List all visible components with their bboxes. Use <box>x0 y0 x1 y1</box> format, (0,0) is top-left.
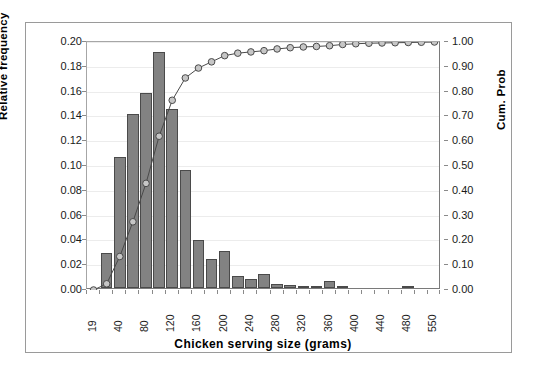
y-axis-left-tick-label: 0.10 <box>38 160 82 170</box>
cumulative-probability-line <box>87 42 441 290</box>
y-axis-left-tick-label: 0.04 <box>38 234 82 244</box>
y-axis-left-title: Relative frequency <box>0 0 9 120</box>
cumulative-line-marker <box>103 281 110 288</box>
y-axis-right-tick-mark <box>444 91 448 92</box>
cumulative-line-marker <box>156 133 163 140</box>
y-axis-right-tick-mark <box>444 41 448 42</box>
x-axis-tick-mark <box>283 290 284 294</box>
y-axis-right-tick-mark <box>444 239 448 240</box>
x-axis-tick-mark <box>414 290 415 294</box>
y-axis-right-tick-mark <box>444 115 448 116</box>
x-axis-tick-mark <box>191 290 192 294</box>
cumulative-line-marker <box>339 42 346 48</box>
y-axis-right-tick-mark <box>444 165 448 166</box>
x-axis-tick-label: 19 <box>87 320 97 332</box>
cumulative-line-marker <box>130 219 137 226</box>
cumulative-line-marker <box>405 42 412 46</box>
y-axis-right-tick-label: 0.10 <box>452 259 496 269</box>
cumulative-line-marker <box>116 253 123 260</box>
chart-figure: Relative frequency Cum. Prob 0.200.180.1… <box>0 0 538 376</box>
cumulative-line-marker <box>221 52 228 59</box>
y-axis-right-tick-mark <box>444 190 448 191</box>
x-axis-tick-label: 200 <box>218 314 228 332</box>
y-axis-right-tick-label: 0.70 <box>452 110 496 120</box>
y-axis-left-tick-label: 0.18 <box>38 61 82 71</box>
x-axis-tick-mark <box>204 290 205 294</box>
x-axis-tick-mark <box>322 290 323 294</box>
y-axis-right-tick-label: 0.80 <box>452 86 496 96</box>
x-axis-tick-label: 400 <box>349 314 359 332</box>
x-axis-tick-mark <box>439 290 440 294</box>
x-axis-tick-mark <box>256 290 257 294</box>
x-axis-tick-label: 280 <box>270 314 280 332</box>
cumulative-line-marker <box>352 42 359 47</box>
cumulative-line-marker <box>366 42 373 47</box>
y-axis-left-tick-label: 0.12 <box>38 135 82 145</box>
cumulative-line-marker <box>195 65 202 72</box>
y-axis-right-title: Cum. Prob <box>495 0 507 130</box>
x-axis-tick-mark <box>361 290 362 294</box>
y-axis-left-tick-label: 0.02 <box>38 259 82 269</box>
x-axis-ticks: 194080120160200240280320360400440480550 <box>86 290 440 336</box>
y-axis-right-tick-label: 0.40 <box>452 185 496 195</box>
x-axis-tick-label: 550 <box>427 314 437 332</box>
y-axis-right-tick-label: 1.00 <box>452 36 496 46</box>
x-axis-tick-mark <box>401 290 402 294</box>
x-axis-tick-label: 160 <box>191 314 201 332</box>
cumulative-line-path <box>94 42 435 290</box>
y-axis-right-tick-mark <box>444 264 448 265</box>
y-axis-right-tick-label: 0.00 <box>452 284 496 294</box>
x-axis-tick-label: 440 <box>375 314 385 332</box>
x-axis-tick-label: 80 <box>139 320 149 332</box>
x-axis-tick-mark <box>178 290 179 294</box>
y-axis-right-tick-label: 0.30 <box>452 210 496 220</box>
cumulative-line-marker <box>248 49 255 56</box>
cumulative-line-marker <box>182 75 189 82</box>
cumulative-line-marker <box>313 43 320 50</box>
y-axis-right-tick-mark <box>444 66 448 67</box>
x-axis-tick-mark <box>217 290 218 294</box>
x-axis-tick-label: 40 <box>113 320 123 332</box>
cumulative-line-marker <box>392 42 399 46</box>
cumulative-line-marker <box>234 50 241 57</box>
x-axis-tick-mark <box>374 290 375 294</box>
y-axis-right-tick-mark <box>444 215 448 216</box>
cumulative-line-marker <box>431 42 438 45</box>
y-axis-right-tick-mark <box>444 289 448 290</box>
y-axis-right-ticks: 1.000.900.800.700.600.500.400.300.200.10… <box>444 41 490 289</box>
y-axis-right-tick-label: 0.50 <box>452 160 496 170</box>
x-axis-tick-mark <box>335 290 336 294</box>
y-axis-right-tick-mark <box>444 140 448 141</box>
x-axis-tick-mark <box>427 290 428 294</box>
x-axis-tick-mark <box>388 290 389 294</box>
x-axis-tick-mark <box>152 290 153 294</box>
cumulative-line-marker <box>300 44 307 51</box>
y-axis-left-tick-label: 0.08 <box>38 185 82 195</box>
y-axis-left-tick-label: 0.00 <box>38 284 82 294</box>
x-axis-tick-mark <box>230 290 231 294</box>
x-axis-title: Chicken serving size (grams) <box>86 337 440 351</box>
x-axis-tick-mark <box>243 290 244 294</box>
cumulative-line-marker <box>379 42 386 46</box>
y-axis-right-tick-label: 0.60 <box>452 135 496 145</box>
y-axis-right-tick-label: 0.90 <box>452 61 496 71</box>
x-axis-tick-mark <box>125 290 126 294</box>
cumulative-line-marker <box>418 42 425 46</box>
y-axis-left-tick-label: 0.06 <box>38 210 82 220</box>
x-axis-tick-mark <box>99 290 100 294</box>
x-axis-tick-mark <box>86 290 87 294</box>
x-axis-tick-mark <box>165 290 166 294</box>
cumulative-line-marker <box>169 97 176 104</box>
y-axis-right-tick-label: 0.20 <box>452 234 496 244</box>
x-axis-tick-label: 120 <box>165 314 175 332</box>
cumulative-line-marker <box>287 44 294 51</box>
x-axis-tick-label: 320 <box>296 314 306 332</box>
y-axis-left-tick-label: 0.20 <box>38 36 82 46</box>
cumulative-line-marker <box>208 59 215 66</box>
plot-area <box>86 41 440 289</box>
x-axis-tick-mark <box>270 290 271 294</box>
y-axis-left-tick-label: 0.16 <box>38 86 82 96</box>
x-axis-tick-mark <box>112 290 113 294</box>
x-axis-tick-mark <box>296 290 297 294</box>
x-axis-tick-mark <box>138 290 139 294</box>
